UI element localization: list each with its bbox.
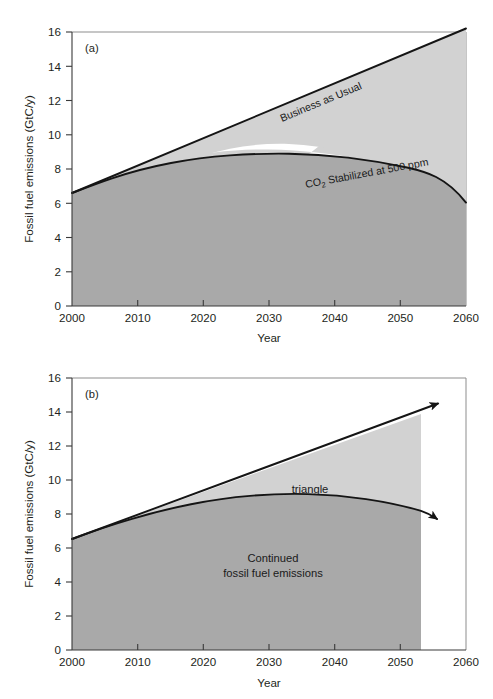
panel-a-y-ticks	[66, 32, 72, 306]
panel-a-continued-region	[72, 154, 466, 306]
y-tick-label: 16	[48, 25, 61, 38]
y-tick-label: 2	[55, 609, 61, 622]
panel-b-x-axis-title: Year	[257, 676, 281, 689]
x-tick-label: 2050	[387, 655, 413, 668]
panel-b: 0 2 4 6 8 10 12 14 16 2000 2010 2020 203…	[0, 350, 493, 699]
y-tick-label: 14	[48, 405, 61, 418]
panel-a-tag: (a)	[85, 42, 99, 54]
panel-a-y-axis-title: Fossil fuel emissions (GtC/y)	[22, 95, 35, 243]
x-tick-label: 2060	[453, 655, 479, 668]
panel-a-svg: 0 2 4 6 8 10 12 14 16 2000 2010 2020 203…	[0, 0, 493, 350]
continued-emissions-label-line2: fossil fuel emissions	[223, 567, 323, 579]
x-tick-label: 2030	[256, 311, 282, 324]
y-tick-label: 16	[48, 371, 61, 384]
panel-a-y-tick-labels: 0 2 4 6 8 10 12 14 16	[48, 25, 61, 312]
y-tick-label: 8	[55, 507, 61, 520]
y-tick-label: 2	[55, 265, 61, 278]
y-tick-label: 4	[55, 231, 62, 244]
panel-b-y-tick-labels: 0 2 4 6 8 10 12 14 16	[48, 371, 61, 656]
y-tick-label: 10	[48, 128, 61, 141]
y-tick-label: 12	[48, 439, 61, 452]
x-tick-label: 2000	[59, 655, 85, 668]
figure-root: { "figure": { "colors": { "triangle_fill…	[0, 0, 493, 699]
x-tick-label: 2060	[453, 311, 479, 324]
y-tick-label: 8	[55, 162, 61, 175]
x-tick-label: 2000	[59, 311, 85, 324]
panel-a-x-tick-labels: 2000 2010 2020 2030 2040 2050 2060	[59, 311, 479, 324]
panel-b-tag: (b)	[85, 388, 99, 400]
panel-b-y-ticks	[66, 378, 72, 650]
x-tick-label: 2050	[387, 311, 413, 324]
y-tick-label: 10	[48, 473, 61, 486]
y-tick-label: 12	[48, 94, 61, 107]
y-tick-label: 4	[55, 575, 62, 588]
x-tick-label: 2020	[190, 311, 216, 324]
y-tick-label: 6	[55, 541, 61, 554]
y-tick-label: 6	[55, 197, 61, 210]
y-tick-label: 14	[48, 60, 61, 73]
x-tick-label: 2040	[322, 655, 348, 668]
x-tick-label: 2010	[125, 311, 151, 324]
x-tick-label: 2040	[322, 311, 348, 324]
x-tick-label: 2030	[256, 655, 282, 668]
panel-a: 0 2 4 6 8 10 12 14 16 2000 2010 2020 203…	[0, 0, 493, 350]
x-tick-label: 2020	[190, 655, 216, 668]
continued-emissions-label-line1: Continued	[247, 552, 298, 564]
panel-a-x-axis-title: Year	[257, 331, 281, 344]
panel-b-y-axis-title: Fossil fuel emissions (GtC/y)	[22, 440, 35, 588]
panel-b-x-tick-labels: 2000 2010 2020 2030 2040 2050 2060	[59, 655, 479, 668]
panel-b-svg: 0 2 4 6 8 10 12 14 16 2000 2010 2020 203…	[0, 350, 493, 699]
x-tick-label: 2010	[125, 655, 151, 668]
stabilization-triangle-label-line2: triangle	[292, 483, 329, 495]
